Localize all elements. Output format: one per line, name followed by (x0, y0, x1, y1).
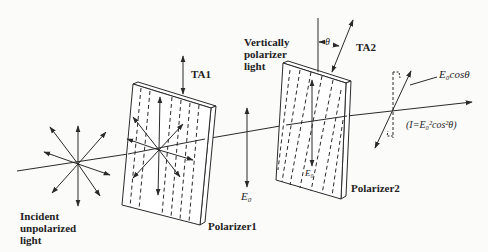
vertically-polarized-light-label: Vertically polarizer light (244, 36, 289, 72)
polarization-diagram: TA1 TA2 θ Vertically polarizer light Inc… (0, 0, 488, 252)
light-beam-exit (347, 102, 472, 116)
ta1-label: TA1 (191, 69, 211, 80)
polarizer2-slab (276, 61, 351, 199)
e0-label: E₀ (241, 191, 252, 202)
light-beam-middle (205, 125, 286, 139)
incident-unpolarized-light-label: Incident unpolarized light (20, 210, 76, 246)
e0-polarizer2-label: E₀ (305, 169, 314, 178)
e0-cos-theta-label: E₀cosθ (439, 69, 470, 80)
ta2-axis-arrow (332, 20, 353, 72)
unpolarized-light-star-icon (44, 126, 110, 206)
ta2-label: TA2 (356, 42, 376, 53)
intensity-formula-label: (I=E₀²cos²θ) (406, 120, 457, 130)
theta-label: θ (325, 37, 330, 47)
polarizer1-label: Polarizer1 (208, 221, 257, 232)
polarizer2-label: Polarizer2 (351, 183, 400, 194)
polarizer1-slab (122, 82, 216, 225)
e0-cos-theta-leader (410, 77, 437, 85)
